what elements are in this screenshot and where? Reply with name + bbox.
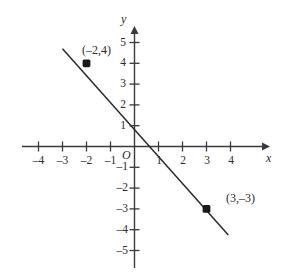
point-annotation: (3,–3) [226, 192, 255, 204]
data-point-marker [203, 205, 211, 213]
x-axis-label: x [266, 152, 271, 164]
y-tick-label: 5 [120, 37, 126, 49]
coordinate-plane-chart: –4 –3 –2 –1 1 2 3 4 5 4 3 2 1 –1 –2 –3 –… [0, 0, 288, 279]
origin-label: O [122, 149, 131, 161]
x-tick-label: 3 [204, 155, 210, 167]
y-axis-label: y [121, 13, 126, 25]
y-tick-label: 1 [120, 120, 126, 132]
y-tick-label: –2 [117, 182, 129, 194]
x-tick-label: –3 [57, 155, 69, 167]
y-tick-label: –3 [117, 203, 129, 215]
y-tick-label: –4 [117, 224, 129, 236]
y-axis-arrow-icon [131, 26, 139, 34]
point-annotation: (–2,4) [82, 44, 111, 56]
x-tick-label: 2 [180, 155, 186, 167]
x-axis-arrow-icon [262, 143, 270, 151]
y-tick-label: 3 [120, 78, 126, 90]
data-point-marker [83, 59, 91, 67]
x-tick-label: –4 [33, 155, 45, 167]
x-tick-label: 1 [156, 155, 162, 167]
y-tick-label: –5 [117, 245, 129, 257]
y-tick-label: 2 [120, 99, 126, 111]
y-tick-label: –1 [117, 162, 129, 174]
chart-canvas [0, 0, 288, 279]
x-tick-label: –1 [105, 155, 117, 167]
x-tick-label: 4 [228, 155, 234, 167]
x-tick-label: –2 [81, 155, 93, 167]
y-tick-label: 4 [120, 58, 126, 70]
